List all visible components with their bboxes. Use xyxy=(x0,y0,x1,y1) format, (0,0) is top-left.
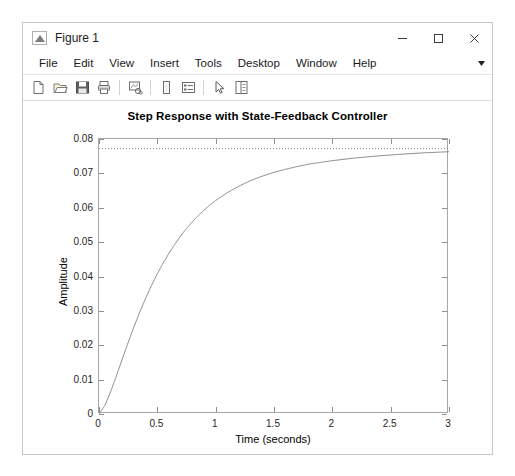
edit-plot-arrow-icon[interactable] xyxy=(209,78,229,98)
link-plot-icon[interactable] xyxy=(125,78,145,98)
x-tick-top xyxy=(157,139,158,144)
toolbar-separator xyxy=(119,80,120,95)
x-tick xyxy=(332,407,333,412)
toolbar-separator xyxy=(150,80,151,95)
x-tick-top xyxy=(216,139,217,144)
toolbar-separator xyxy=(203,80,204,95)
show-plot-tools-icon[interactable] xyxy=(231,78,251,98)
y-tick-label: 0.04 xyxy=(46,270,93,281)
y-tick xyxy=(99,208,104,209)
x-tick xyxy=(157,407,158,412)
y-tick-label: 0.03 xyxy=(46,304,93,315)
window-controls xyxy=(384,23,492,53)
y-tick-right xyxy=(442,173,447,174)
x-tick-label: 3 xyxy=(445,418,451,429)
menu-overflow-chevron-down-icon[interactable] xyxy=(476,59,486,69)
y-tick-label: 0.07 xyxy=(46,167,93,178)
menu-bar: File Edit View Insert Tools Desktop Wind… xyxy=(23,53,492,75)
insert-legend-icon[interactable] xyxy=(178,78,198,98)
x-tick-label: 2 xyxy=(329,418,335,429)
x-tick xyxy=(391,407,392,412)
x-tick-label: 0.5 xyxy=(149,418,163,429)
matlab-figure-icon xyxy=(32,31,47,45)
save-figure-icon[interactable] xyxy=(72,78,92,98)
figure-window: Figure 1 File Edit View Insert Tools Des xyxy=(22,22,493,455)
step-response-curve xyxy=(99,152,449,414)
menu-item-insert[interactable]: Insert xyxy=(142,58,187,70)
menu-item-desktop[interactable]: Desktop xyxy=(230,58,288,70)
axes-box xyxy=(98,138,448,413)
plot-area xyxy=(99,139,449,414)
plot-title: Step Response with State-Feedback Contro… xyxy=(23,110,492,122)
x-tick-label: 1.5 xyxy=(266,418,280,429)
x-tick-label: 2.5 xyxy=(383,418,397,429)
menu-item-window[interactable]: Window xyxy=(288,58,345,70)
y-tick-right xyxy=(442,311,447,312)
y-tick xyxy=(99,414,104,415)
y-tick-right xyxy=(442,208,447,209)
menu-item-view[interactable]: View xyxy=(101,58,142,70)
window-title: Figure 1 xyxy=(55,32,99,44)
y-tick-label: 0.08 xyxy=(46,133,93,144)
x-axis-label: Time (seconds) xyxy=(98,433,448,445)
menu-item-tools[interactable]: Tools xyxy=(187,58,230,70)
y-tick-label: 0.01 xyxy=(46,373,93,384)
y-tick-label: 0.06 xyxy=(46,201,93,212)
close-button[interactable] xyxy=(456,23,492,53)
x-tick-top xyxy=(449,139,450,144)
y-tick-right xyxy=(442,277,447,278)
y-tick xyxy=(99,139,104,140)
y-tick-label: 0 xyxy=(46,408,93,419)
y-tick xyxy=(99,380,104,381)
y-tick xyxy=(99,173,104,174)
x-tick xyxy=(449,407,450,412)
y-tick-right xyxy=(442,380,447,381)
x-tick-label: 0 xyxy=(95,418,101,429)
y-tick-right xyxy=(442,139,447,140)
title-bar: Figure 1 xyxy=(23,23,492,53)
y-tick-right xyxy=(442,345,447,346)
y-tick xyxy=(99,311,104,312)
figure-canvas[interactable]: Step Response with State-Feedback Contro… xyxy=(23,101,492,454)
x-tick-top xyxy=(332,139,333,144)
x-tick-top xyxy=(274,139,275,144)
menu-item-edit[interactable]: Edit xyxy=(66,58,102,70)
menu-item-help[interactable]: Help xyxy=(345,58,385,70)
x-tick xyxy=(274,407,275,412)
y-tick-label: 0.05 xyxy=(46,236,93,247)
print-figure-icon[interactable] xyxy=(94,78,114,98)
minimize-button[interactable] xyxy=(384,23,420,53)
new-figure-icon[interactable] xyxy=(28,78,48,98)
y-tick xyxy=(99,345,104,346)
open-file-icon[interactable] xyxy=(50,78,70,98)
title-bar-left: Figure 1 xyxy=(23,31,99,45)
figure-toolbar xyxy=(23,75,492,101)
y-tick-right xyxy=(442,242,447,243)
y-tick xyxy=(99,242,104,243)
x-tick xyxy=(216,407,217,412)
insert-colorbar-icon[interactable] xyxy=(156,78,176,98)
y-tick-right xyxy=(442,414,447,415)
y-tick-label: 0.02 xyxy=(46,339,93,350)
x-tick xyxy=(99,407,100,412)
y-axis-label: Amplitude xyxy=(57,257,69,306)
menu-item-file[interactable]: File xyxy=(31,58,66,70)
cut-off-caption-text xyxy=(0,462,515,476)
x-tick-label: 1 xyxy=(212,418,218,429)
maximize-button[interactable] xyxy=(420,23,456,53)
x-tick-top xyxy=(391,139,392,144)
screen: Figure 1 File Edit View Insert Tools Des xyxy=(0,0,515,476)
y-tick xyxy=(99,277,104,278)
